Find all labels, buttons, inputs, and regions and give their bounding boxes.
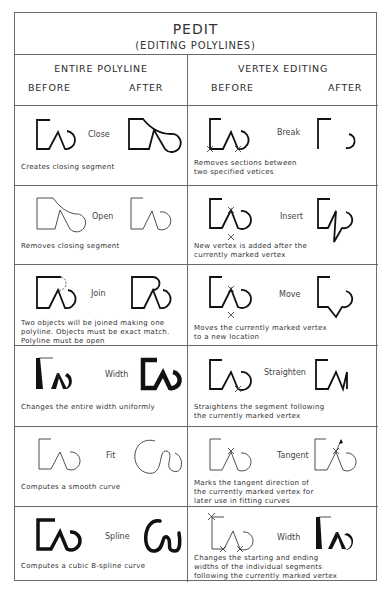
column-header-entire-polyline: ENTIRE POLYLINE BEFORE AFTER: [15, 55, 187, 106]
column-heading: ENTIRE POLYLINE: [15, 63, 187, 74]
title-block: PEDIT (EDITING POLYLINES): [15, 13, 376, 55]
operation-description: Straightens the segment following the cu…: [194, 403, 325, 421]
operation-label: Break: [277, 128, 300, 137]
operation-description: New vertex is added after the currently …: [194, 242, 307, 260]
row-insert: Insert New vertex is added after the cur…: [188, 186, 378, 265]
page-title: PEDIT: [15, 21, 376, 37]
operation-label: Fit: [106, 451, 115, 460]
row-move: Move Moves the currently marked vertex t…: [188, 265, 378, 346]
fit-after-drawing: [15, 427, 187, 507]
operation-label: Join: [91, 289, 106, 298]
operation-label: Spline: [105, 532, 130, 541]
row-straighten: Straighten Straightens the segment follo…: [188, 346, 378, 427]
width-after-drawing: [15, 346, 187, 427]
row-fit: Fit Computes a smooth curve: [15, 427, 187, 507]
pedit-table: PEDIT (EDITING POLYLINES) ENTIRE POLYLIN…: [14, 12, 377, 581]
column-header-vertex-editing: VERTEX EDITING BEFORE AFTER: [188, 55, 378, 106]
before-label: BEFORE: [211, 82, 254, 93]
operation-label: Open: [92, 212, 113, 221]
operation-label: Insert: [280, 212, 303, 221]
operation-label: Width: [105, 370, 128, 379]
operation-label: Straighten: [264, 368, 306, 377]
row-vertex-width: Width Changes the starting and ending wi…: [188, 507, 378, 582]
page-subtitle: (EDITING POLYLINES): [15, 40, 376, 51]
row-close: Close Creates closing segment: [15, 106, 187, 186]
operation-description: Creates closing segment: [21, 163, 115, 172]
operation-description: Computes a cubic B-spline curve: [21, 562, 145, 571]
after-label: AFTER: [129, 82, 163, 93]
row-spline: Spline Computes a cubic B-spline curve: [15, 507, 187, 582]
operation-description: Changes the entire width uniformly: [21, 403, 155, 412]
row-break: Break Removes sections between two speci…: [188, 106, 378, 186]
row-tangent: Tangent Marks the tangent direction of t…: [188, 427, 378, 507]
operation-description: Removes sections between two specified v…: [194, 159, 297, 177]
operation-label: Tangent: [277, 451, 309, 460]
operation-label: Move: [279, 290, 300, 299]
row-join: Join Two objects will be joined making o…: [15, 265, 187, 346]
operation-description: Moves the currently marked vertex to a n…: [194, 324, 327, 342]
operation-label: Width: [277, 533, 300, 542]
after-label: AFTER: [328, 82, 362, 93]
before-label: BEFORE: [28, 82, 71, 93]
close-after-drawing: [15, 106, 187, 186]
row-open: Open Removes closing segment: [15, 186, 187, 265]
operation-description: Two objects will be joined making one po…: [21, 319, 170, 346]
column-heading: VERTEX EDITING: [188, 63, 378, 74]
operation-description: Changes the starting and ending widths o…: [194, 554, 337, 581]
operation-label: Close: [88, 130, 110, 139]
open-after-drawing: [15, 186, 187, 265]
operation-description: Computes a smooth curve: [21, 483, 120, 492]
operation-description: Removes closing segment: [21, 242, 120, 251]
row-width: Width Changes the entire width uniformly: [15, 346, 187, 427]
operation-description: Marks the tangent direction of the curre…: [194, 479, 314, 506]
